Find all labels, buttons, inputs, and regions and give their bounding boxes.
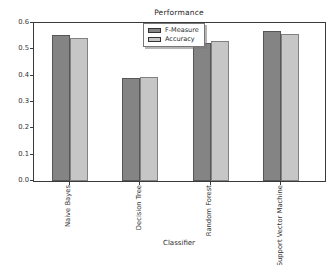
x-tick-label: Naive Bayes bbox=[64, 185, 73, 227]
x-tick-label: Support Vector Machine bbox=[276, 185, 285, 265]
legend-swatch-icon bbox=[148, 28, 161, 33]
y-tick-mark bbox=[30, 22, 33, 23]
y-tick-label: 0.3 bbox=[4, 97, 29, 105]
legend-label: Accuracy bbox=[165, 36, 195, 43]
bar-f-measure bbox=[263, 31, 281, 181]
x-tick-label: Decision Tree bbox=[135, 185, 144, 230]
x-tick-label: Random Forest bbox=[205, 185, 214, 236]
legend-entry: F-Measure bbox=[148, 27, 199, 34]
y-tick-mark bbox=[30, 154, 33, 155]
y-tick-label: 0.5 bbox=[4, 44, 29, 52]
bar-f-measure bbox=[52, 35, 70, 181]
y-tick-mark bbox=[30, 48, 33, 49]
y-tick-label: 0.6 bbox=[4, 18, 29, 26]
legend-swatch-icon bbox=[148, 37, 161, 42]
y-tick-label: 0.1 bbox=[4, 150, 29, 158]
bar-accuracy bbox=[211, 41, 229, 181]
bar-accuracy bbox=[140, 77, 158, 181]
bar-f-measure bbox=[193, 43, 211, 181]
legend-label: F-Measure bbox=[165, 27, 199, 34]
bar-accuracy bbox=[70, 38, 88, 182]
legend: F-MeasureAccuracy bbox=[143, 23, 205, 47]
bar-f-measure bbox=[122, 78, 140, 181]
chart-title: Performance bbox=[33, 8, 325, 17]
y-tick-label: 0.4 bbox=[4, 71, 29, 79]
y-tick-mark bbox=[30, 127, 33, 128]
y-tick-mark bbox=[30, 180, 33, 181]
legend-entry: Accuracy bbox=[148, 36, 199, 43]
y-tick-label: 0.2 bbox=[4, 123, 29, 131]
y-tick-label: 0.0 bbox=[4, 176, 29, 184]
y-tick-mark bbox=[30, 75, 33, 76]
bar-chart-figure: Performance F-MeasureAccuracy Classifier… bbox=[0, 0, 334, 265]
y-tick-mark bbox=[30, 101, 33, 102]
bar-accuracy bbox=[281, 34, 299, 182]
